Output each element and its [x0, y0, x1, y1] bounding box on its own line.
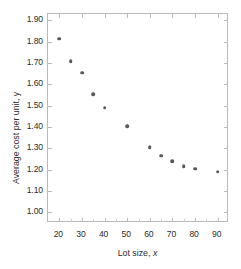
y-tick-label-1.90: 1.90: [19, 14, 43, 24]
x-tick-minor-75: [184, 219, 185, 222]
y-tick-1.90: [48, 20, 52, 21]
y-tick-right-1.60: [224, 84, 228, 85]
x-tick-minor-35: [93, 219, 94, 222]
x-tick-60: [150, 218, 151, 222]
data-point: [159, 154, 163, 158]
y-tick-1.70: [48, 63, 52, 64]
x-axis-variable-symbol: x: [153, 248, 157, 258]
y-tick-right-1.90: [224, 20, 228, 21]
y-tick-label-1.70: 1.70: [19, 57, 43, 67]
x-axis-title-text: Lot size,: [118, 248, 153, 258]
scatter-plot-figure: 2030405060708090 1.001.101.201.301.401.5…: [0, 0, 241, 269]
x-tick-label-60: 60: [144, 229, 153, 239]
x-tick-20: [59, 218, 60, 222]
y-tick-1.20: [48, 170, 52, 171]
x-tick-minor-25: [71, 219, 72, 222]
y-tick-right-1.40: [224, 127, 228, 128]
x-tick-30: [82, 218, 83, 222]
x-tick-50: [127, 218, 128, 222]
x-tick-40: [105, 218, 106, 222]
x-tick-top-90: [218, 14, 219, 18]
y-tick-label-1.40: 1.40: [19, 121, 43, 131]
y-tick-1.30: [48, 148, 52, 149]
x-tick-90: [218, 218, 219, 222]
x-tick-top-20: [59, 14, 60, 18]
data-point: [193, 167, 197, 171]
x-tick-minor-85: [206, 219, 207, 222]
y-tick-label-1.50: 1.50: [19, 100, 43, 110]
data-point: [69, 59, 73, 63]
y-axis-variable-symbol: y: [11, 92, 21, 96]
y-tick-right-1.80: [224, 42, 228, 43]
y-tick-label-1.60: 1.60: [19, 78, 43, 88]
x-tick-top-30: [82, 14, 83, 18]
y-axis-title: Average cost per unit, y: [11, 92, 21, 184]
x-tick-top-70: [172, 14, 173, 18]
y-tick-right-1.10: [224, 191, 228, 192]
y-tick-right-1.30: [224, 148, 228, 149]
x-tick-minor-65: [161, 219, 162, 222]
x-tick-top-40: [105, 14, 106, 18]
data-point: [125, 124, 129, 128]
data-point: [80, 71, 84, 75]
x-tick-minor-55: [139, 219, 140, 222]
data-point: [182, 165, 186, 169]
data-point: [58, 37, 62, 41]
data-point: [171, 159, 175, 163]
y-tick-1.80: [48, 42, 52, 43]
x-tick-top-60: [150, 14, 151, 18]
data-point: [91, 92, 95, 96]
y-tick-right-1.00: [224, 212, 228, 213]
x-tick-top-50: [127, 14, 128, 18]
plot-area: [47, 13, 228, 222]
y-tick-1.60: [48, 84, 52, 85]
data-point: [216, 170, 220, 174]
x-tick-label-50: 50: [122, 229, 131, 239]
y-tick-label-1.80: 1.80: [19, 36, 43, 46]
x-tick-label-90: 90: [212, 229, 221, 239]
x-tick-label-40: 40: [99, 229, 108, 239]
y-tick-1.10: [48, 191, 52, 192]
y-tick-1.40: [48, 127, 52, 128]
y-tick-right-1.20: [224, 170, 228, 171]
x-tick-minor-45: [116, 219, 117, 222]
y-tick-label-1.20: 1.20: [19, 164, 43, 174]
y-tick-label-1.00: 1.00: [19, 206, 43, 216]
x-tick-80: [195, 218, 196, 222]
y-axis-title-text: Average cost per unit,: [11, 96, 21, 184]
y-tick-label-1.30: 1.30: [19, 142, 43, 152]
x-tick-label-20: 20: [54, 229, 63, 239]
x-axis-title: Lot size, x: [47, 248, 228, 258]
y-tick-right-1.70: [224, 63, 228, 64]
y-tick-right-1.50: [224, 106, 228, 107]
y-tick-label-1.10: 1.10: [19, 185, 43, 195]
data-point: [148, 145, 152, 149]
y-tick-1.50: [48, 106, 52, 107]
x-tick-label-30: 30: [76, 229, 85, 239]
y-tick-1.00: [48, 212, 52, 213]
x-tick-70: [172, 218, 173, 222]
x-tick-label-70: 70: [167, 229, 176, 239]
x-tick-label-80: 80: [189, 229, 198, 239]
x-tick-top-80: [195, 14, 196, 18]
data-point: [103, 106, 107, 110]
